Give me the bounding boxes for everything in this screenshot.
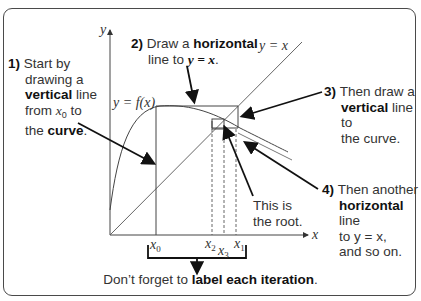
y-axis-label: y	[100, 22, 106, 38]
x0-label: x0	[150, 237, 161, 254]
arrow-step2	[187, 66, 194, 101]
step4-text: line	[339, 213, 360, 228]
note-step2: 2) Draw a horizontal line to y = x.	[131, 36, 258, 67]
footer-note: Don’t forget to label each iteration.	[0, 272, 421, 287]
x3-label: x3	[218, 243, 229, 260]
arrow-step4	[246, 143, 318, 189]
line-label: y = x	[259, 38, 288, 54]
arrow-step3	[243, 92, 322, 116]
step1-text: the	[25, 123, 48, 138]
curve-f-of-x	[110, 106, 288, 210]
note-step4: 4) Then another horizontal line to y = x…	[322, 182, 421, 260]
step4-text: and so on.	[322, 244, 421, 260]
step1-bold: vertical	[25, 87, 72, 102]
root-text: This is	[253, 198, 303, 214]
step1-text: drawing a	[8, 72, 97, 88]
step2-number: 2)	[131, 36, 143, 51]
x3-sub: 3	[224, 250, 229, 260]
note-step1: 1) Start by drawing a vertical line from…	[8, 56, 97, 139]
step2-text: .	[215, 52, 219, 67]
step4-bold: horizontal	[339, 198, 404, 213]
footer-text: .	[314, 272, 318, 287]
x1-sub: 1	[240, 243, 245, 253]
curve-label: y = f(x)	[113, 95, 155, 111]
step3-number: 3)	[324, 84, 336, 99]
step3-text: Then draw a	[340, 84, 415, 99]
step1-text: from	[25, 103, 56, 118]
step1-bold: curve	[48, 123, 84, 138]
step1-number: 1)	[8, 56, 20, 71]
footer-text: Don’t forget to	[103, 272, 192, 287]
step1-text: line	[72, 87, 97, 102]
step4-text: to y = x,	[322, 229, 421, 245]
step4-number: 4)	[322, 182, 334, 197]
step1-text: Start by	[24, 56, 71, 71]
x2-sub: 2	[211, 243, 216, 253]
iteration-bracket	[148, 245, 246, 258]
step2-math: y = x	[188, 52, 215, 67]
note-root: This is the root.	[253, 198, 303, 229]
step3-text: the curve.	[324, 131, 421, 147]
step1-text: .	[84, 123, 88, 138]
step2-bold: horizontal	[193, 36, 258, 51]
step1-text: to	[67, 103, 82, 118]
footer-bold: label each iteration	[192, 272, 314, 287]
x2-label: x2	[205, 236, 216, 253]
note-step3: 3) Then draw a vertical line to the curv…	[324, 84, 421, 146]
step2-text: line to	[148, 52, 188, 67]
step3-bold: vertical	[341, 100, 388, 115]
root-text: the root.	[253, 214, 303, 230]
step2-text: Draw a	[147, 36, 194, 51]
x0-sub: 0	[156, 244, 161, 254]
x-axis-label: x	[312, 227, 318, 243]
step4-text: Then another	[338, 182, 418, 197]
x1-label: x1	[234, 236, 245, 253]
